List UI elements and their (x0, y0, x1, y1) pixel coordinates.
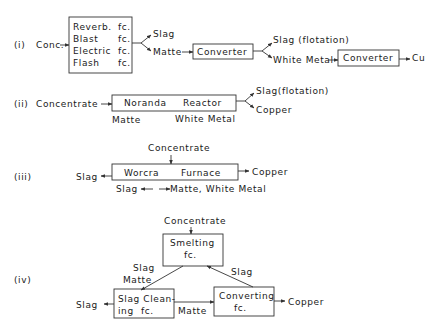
input-concentrate: Concentrate (36, 99, 98, 109)
output-matte: Matte (153, 47, 182, 57)
furnace-blast: Blast (73, 34, 98, 44)
output-slag: Slag (76, 300, 98, 310)
arrow-icon (245, 93, 254, 101)
label-slag: Slag (133, 263, 155, 273)
label-iv: (iv) (14, 275, 31, 285)
input-concentrate: Concentrate (148, 143, 210, 153)
label-i: (i) (14, 40, 25, 50)
arrow-icon (262, 51, 272, 58)
furnace-name-left: Worcra (124, 168, 159, 178)
label-matte: Matte (123, 275, 152, 285)
flow-slag: Slag (116, 184, 138, 194)
label-ii: (ii) (14, 99, 28, 109)
process-ii: (ii) Concentrate Noranda Reactor Matte W… (14, 86, 329, 125)
arrow-icon (141, 43, 151, 51)
output-copper: Copper (252, 167, 288, 177)
cleaning-line1: Slag Clean- (118, 294, 176, 304)
output-slag: Slag (153, 29, 175, 39)
reactor-name-right: Reactor (183, 98, 222, 108)
furnace-suffix: fc. (118, 22, 131, 32)
process-i: (i) Conc. Reverb. fc. Blast fc. Electric… (14, 17, 425, 73)
output-slag: Slag (76, 172, 98, 182)
converting-line2: fc. (234, 303, 247, 313)
zone-white-metal: White Metal (175, 114, 235, 124)
process-iii: Concentrate (iii) Slag Worcra Furnace Co… (14, 143, 288, 194)
furnace-suffix: fc. (118, 34, 131, 44)
cleaning-line2a: ing (118, 306, 134, 316)
furnace-reverb: Reverb. (73, 22, 112, 32)
converting-line1: Converting (219, 291, 275, 301)
product-cu: Cu (412, 53, 425, 63)
process-iv: Concentrate Smelting fc. (iv) Slag Matte… (14, 216, 324, 318)
arrow-icon (245, 101, 254, 108)
output-white-metal: White Metal (273, 55, 333, 65)
converter-2: Converter (343, 53, 393, 63)
furnace-suffix: fc. (118, 58, 131, 68)
input-concentrate: Concentrate (164, 216, 226, 226)
smelting-line1: Smelting (170, 238, 215, 248)
cleaning-line2b: fc. (141, 306, 154, 316)
output-slag-flotation: Slag(flotation) (256, 86, 329, 96)
zone-matte: Matte (112, 115, 141, 125)
output-copper: Copper (288, 297, 324, 307)
arrow-icon (262, 43, 272, 51)
reactor-name-left: Noranda (124, 98, 167, 108)
copper-smelting-flowsheet: (i) Conc. Reverb. fc. Blast fc. Electric… (0, 0, 439, 333)
furnace-electric: Electric (73, 46, 111, 56)
output-slag-flotation: Slag (flotation) (273, 35, 349, 45)
flow-matte-white-metal: Matte, White Metal (170, 184, 266, 194)
label-return-slag: Slag (231, 267, 253, 277)
smelting-line2: fc. (184, 250, 197, 260)
furnace-suffix: fc. (118, 46, 131, 56)
label-iii: (iii) (14, 172, 32, 182)
output-copper: Copper (256, 105, 292, 115)
furnace-name-right: Furnace (181, 168, 221, 178)
furnace-flash: Flash (73, 58, 100, 68)
converter-1: Converter (197, 47, 247, 57)
flow-matte: Matte (178, 306, 207, 316)
arrow-icon (141, 35, 151, 43)
